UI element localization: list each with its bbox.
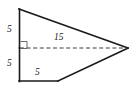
figure-canvas <box>0 0 137 93</box>
dimension-label-bottom: 5 <box>35 68 40 78</box>
dimension-label-diagonal: 15 <box>54 33 64 43</box>
edge-top-diagonal <box>19 9 128 48</box>
right-angle-icon <box>21 42 28 49</box>
dimension-label-left-lower: 5 <box>7 59 12 69</box>
edge-bottom-diagonal <box>58 48 128 81</box>
dimension-label-left-upper: 5 <box>7 25 12 35</box>
geometry-figure: 5 5 5 15 <box>0 0 137 93</box>
